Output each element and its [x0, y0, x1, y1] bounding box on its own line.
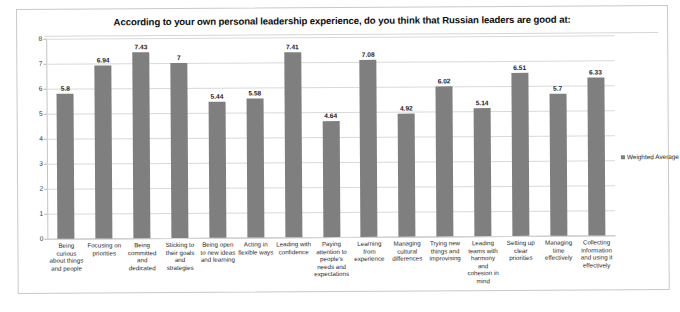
bar-value-label: 7 [165, 54, 193, 61]
chart-legend: Weighted Average [621, 153, 679, 160]
bar-value-label: 6.33 [581, 68, 609, 75]
y-axis-tick-label: 6 [29, 85, 42, 92]
x-axis-category-label: Being curious about things and people [48, 242, 84, 273]
legend-swatch-icon [621, 155, 625, 159]
y-axis-tick-mark [44, 114, 47, 115]
x-axis-category-label: Leading teams with harmony and cohesion … [465, 239, 501, 285]
plot-area: 012345678 5.86.947.4375.445.587.414.647.… [46, 35, 615, 238]
x-axis-category-label: Sticking to their goals and strategies [162, 241, 198, 272]
chart-screenshot: According to your own personal leadershi… [0, 0, 680, 312]
bar[interactable] [170, 63, 188, 238]
x-axis-category-label: Managing cultural differences [389, 240, 425, 263]
bar[interactable] [587, 77, 605, 235]
x-axis-category-label: Focusing on priorities [86, 241, 122, 256]
bar-value-label: 5.7 [544, 84, 572, 91]
x-axis-category-label: Being open to new ideas and learning [200, 241, 236, 264]
y-axis-tick-mark [44, 139, 47, 140]
y-axis-tick-label: 3 [30, 160, 43, 167]
bar-value-label: 7.08 [354, 51, 382, 58]
bar[interactable] [360, 60, 378, 237]
bar[interactable] [246, 98, 264, 238]
bar[interactable] [284, 52, 302, 237]
bar-value-label: 6.02 [430, 77, 458, 84]
y-axis-tick-mark [44, 189, 47, 190]
y-axis-tick-label: 1 [30, 210, 43, 217]
y-axis-tick-label: 4 [30, 135, 43, 142]
bar[interactable] [57, 94, 75, 239]
legend-entry-label: Weighted Average [627, 153, 679, 160]
chart-container: According to your own personal leadershi… [16, 5, 670, 294]
y-axis-tick-label: 0 [30, 235, 43, 242]
x-axis-category-labels: Being curious about things and peopleFoc… [47, 238, 615, 291]
y-axis-tick-mark [43, 64, 46, 65]
x-axis-category-label: Trying new things and improvising [427, 239, 463, 262]
y-axis-tick-label: 2 [30, 185, 43, 192]
bar-value-label: 4.92 [392, 105, 420, 112]
bar-value-label: 7.43 [127, 43, 155, 50]
x-axis-category-label: Managing time effectively [541, 239, 577, 262]
y-axis-tick-label: 5 [30, 110, 43, 117]
bar-value-label: 5.58 [241, 89, 269, 96]
bar-value-label: 5.8 [51, 85, 79, 92]
y-axis-tick-label: 8 [29, 35, 42, 42]
chart-title: According to your own personal leadershi… [16, 13, 668, 28]
y-axis-tick-mark [43, 89, 46, 90]
x-axis-category-label: Setting up clear priorities [503, 239, 539, 262]
bar-value-label: 5.44 [203, 93, 231, 100]
y-axis-tick-mark [43, 39, 46, 40]
y-axis-tick-label: 7 [29, 60, 42, 67]
y-axis-tick-mark [44, 214, 47, 215]
bar[interactable] [132, 52, 150, 238]
bar-value-label: 7.41 [278, 43, 306, 50]
bar[interactable] [436, 86, 454, 237]
x-axis-category-label: Learning from experience [351, 240, 387, 263]
bar-value-label: 4.64 [317, 112, 345, 119]
y-axis-tick-mark [44, 164, 47, 165]
x-axis-category-label: Being committed and dedicated [124, 241, 160, 272]
bar[interactable] [95, 65, 113, 239]
x-axis-category-label: Paying attention to people's needs and e… [313, 240, 349, 278]
y-axis-tick-mark [44, 239, 47, 240]
bar-value-label: 5.14 [468, 99, 496, 106]
x-axis-category-label: Leading with confidence [276, 240, 312, 255]
bar[interactable] [474, 108, 492, 237]
bar-value-label: 6.94 [89, 56, 117, 63]
bar[interactable] [398, 114, 416, 237]
x-axis-category-label: Collecting information and using it effe… [579, 238, 615, 269]
bar-value-label: 6.51 [506, 64, 534, 71]
bar[interactable] [322, 121, 340, 237]
bar[interactable] [549, 93, 567, 236]
bar[interactable] [208, 102, 226, 238]
x-axis-category-label: Acting in flexible ways [238, 240, 274, 255]
bar[interactable] [511, 73, 529, 236]
